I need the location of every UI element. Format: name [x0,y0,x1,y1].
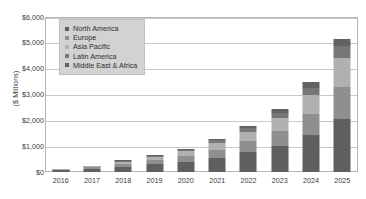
stacked-bar[interactable] [115,160,132,172]
bar-segment [271,118,288,131]
legend-item-label: North America [73,24,119,33]
bar-slot [170,17,201,172]
legend-item[interactable]: Asia Pacific [65,42,137,51]
bar-segment [209,158,226,172]
bar-segment [334,119,351,172]
bar-segment [334,39,351,47]
bar-segment [240,152,257,172]
bar-segment [334,87,351,119]
y-axis-tick-label: $1,000 [4,142,44,151]
x-axis-tick-label: 2023 [264,176,295,185]
legend-item[interactable]: Middle East & Africa [65,61,137,70]
stacked-bar[interactable] [334,39,351,172]
legend-item[interactable]: Latin America [65,52,137,61]
bar-segment [334,58,351,87]
bar-segment [115,167,132,172]
y-axis-tick-label: $5,000 [4,38,44,47]
x-axis-tick-label: 2019 [139,176,170,185]
legend-item-label: Europe [73,33,96,42]
bar-segment [271,131,288,146]
x-axis-tick-label: 2024 [295,176,326,185]
legend-item[interactable]: North America [65,24,137,33]
stacked-bar[interactable] [52,169,69,172]
x-axis-tick-label: 2018 [108,176,139,185]
stacked-bar[interactable] [146,155,163,172]
stacked-bar[interactable] [83,166,100,172]
legend-item-label: Latin America [73,52,117,61]
stacked-bar[interactable] [240,126,257,172]
x-axis-tick-label: 2021 [202,176,233,185]
stacked-bar[interactable] [303,82,320,172]
bar-slot [233,17,264,172]
legend-swatch-icon [65,54,69,58]
bar-slot [327,17,358,172]
bar-segment [334,46,351,57]
x-axis-tick-label: 2025 [327,176,358,185]
legend-swatch-icon [65,63,69,67]
bar-segment [240,141,257,152]
bar-segment [240,132,257,142]
bar-slot [264,17,295,172]
bar-segment [177,162,194,172]
y-axis-tick-label: $6,000 [4,13,44,22]
stacked-bar[interactable] [271,109,288,172]
y-axis-tick-label: $3,000 [4,90,44,99]
y-axis-tick-label: $2,000 [4,116,44,125]
bar-segment [146,164,163,172]
y-axis-tick-label: $4,000 [4,64,44,73]
bar-slot [202,17,233,172]
bar-segment [303,95,320,114]
bar-slot [295,17,326,172]
x-axis-tick-label: 2020 [170,176,201,185]
legend-swatch-icon [65,36,69,40]
bar-segment [83,169,100,172]
y-axis-tick-label: $0 [4,168,44,177]
x-axis-tick-label: 2016 [45,176,76,185]
bar-segment [303,135,320,172]
legend-item-label: Asia Pacific [73,42,110,51]
bar-segment [271,146,288,172]
bar-segment [303,114,320,135]
bar-segment [209,150,226,158]
stacked-bar[interactable] [209,139,226,172]
stacked-bar-chart: ($ Millions) $0$1,000$2,000$3,000$4,000$… [0,0,366,199]
legend-item-label: Middle East & Africa [73,61,137,70]
chart-legend: North AmericaEuropeAsia PacificLatin Ame… [59,19,145,75]
x-axis-tick-label: 2022 [233,176,264,185]
stacked-bar[interactable] [177,149,194,172]
bar-segment [303,88,320,95]
legend-item[interactable]: Europe [65,33,137,42]
legend-swatch-icon [65,45,69,49]
legend-swatch-icon [65,27,69,31]
bar-segment [209,143,226,150]
x-axis-tick-labels: 2016201720182019202020212022202320242025 [45,176,358,190]
bar-segment [52,170,69,172]
x-axis-tick-label: 2017 [76,176,107,185]
